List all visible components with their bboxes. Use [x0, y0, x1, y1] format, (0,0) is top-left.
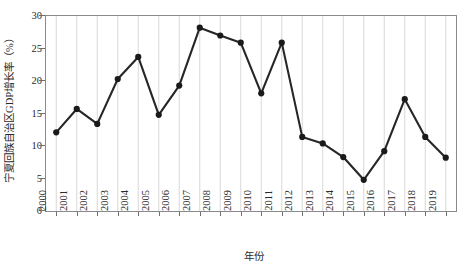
- data-point: [299, 134, 305, 140]
- data-point: [135, 54, 141, 60]
- data-point: [74, 106, 80, 112]
- data-point: [197, 25, 203, 31]
- data-point: [340, 154, 346, 160]
- x-tick-label-text: 2012: [282, 190, 296, 230]
- x-tick-label-text: 2018: [405, 190, 419, 230]
- x-tick-label-text: 2002: [77, 190, 91, 230]
- data-point: [279, 40, 285, 46]
- data-point: [443, 155, 449, 161]
- x-tick-label-text: 2014: [323, 190, 337, 230]
- data-point: [361, 177, 367, 183]
- data-point: [115, 76, 121, 82]
- data-point: [381, 148, 387, 154]
- data-line: [56, 28, 446, 180]
- vertical-gridlines: [56, 16, 446, 211]
- x-tick-label-text: 2004: [118, 190, 132, 230]
- x-tick-label-text: 2008: [200, 190, 214, 230]
- chart-figure: 宁夏回族自治区GDP增长率（%） 051015202530 2000200120…: [0, 0, 467, 264]
- y-axis-title: 宁夏回族自治区GDP增长率（%）: [2, 8, 18, 208]
- data-point: [422, 134, 428, 140]
- x-tick-label-text: 2001: [57, 190, 71, 230]
- data-point: [156, 112, 162, 118]
- data-point: [320, 140, 326, 146]
- x-tick-label-text: 2015: [344, 190, 358, 230]
- x-tick-label-text: 2005: [139, 190, 153, 230]
- x-tick-label-text: 2000: [36, 190, 50, 230]
- data-point: [53, 129, 59, 135]
- data-point: [238, 40, 244, 46]
- x-tick-label-text: 2019: [426, 190, 440, 230]
- x-tick-label-text: 2003: [98, 190, 112, 230]
- x-axis-title: 年份: [0, 248, 467, 263]
- x-tick-label-text: 2011: [262, 190, 276, 230]
- x-tick-label-text: 2009: [221, 190, 235, 230]
- x-tick-label-text: 2006: [159, 190, 173, 230]
- data-point-markers: [53, 25, 449, 183]
- data-point: [258, 90, 264, 96]
- line-chart-svg: [46, 16, 456, 211]
- data-point: [176, 82, 182, 88]
- x-tick-label-text: 2017: [385, 190, 399, 230]
- x-tick-label-text: 2013: [303, 190, 317, 230]
- data-point: [94, 121, 100, 127]
- x-tick-label-text: 2016: [364, 190, 378, 230]
- data-point: [217, 32, 223, 38]
- plot-area: [45, 15, 457, 212]
- data-point: [402, 96, 408, 102]
- x-tick-label-text: 2010: [241, 190, 255, 230]
- x-tick-label-text: 2007: [180, 190, 194, 230]
